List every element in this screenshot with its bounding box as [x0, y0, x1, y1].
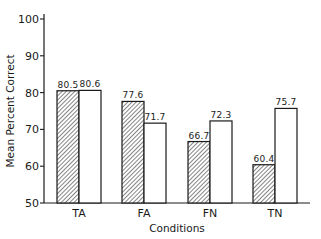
y-tick-label: 70 — [25, 123, 39, 136]
value-label: 80.5 — [57, 80, 78, 90]
y-axis-title: Mean Percent Correct — [4, 54, 16, 167]
value-label: 80.6 — [79, 79, 100, 89]
value-label: 77.6 — [122, 90, 143, 100]
category-label-tn: TN — [267, 207, 283, 220]
y-tick-label: 60 — [25, 160, 39, 173]
bar-ta-open — [79, 90, 101, 203]
y-axis: 5060708090100 — [18, 13, 44, 210]
value-label: 60.4 — [253, 154, 274, 164]
bar-fa-open — [144, 123, 166, 203]
y-tick-label: 100 — [18, 13, 39, 26]
y-tick-label: 90 — [25, 50, 39, 63]
value-label: 71.7 — [144, 112, 165, 122]
category-label-ta: TA — [71, 207, 86, 220]
value-label: 66.7 — [188, 131, 209, 141]
bar-fn-hatched — [188, 142, 210, 203]
category-label-fn: FN — [203, 207, 218, 220]
y-tick-label: 50 — [25, 197, 39, 210]
bar-chart: 5060708090100 80.580.6TA77.671.7FA66.772… — [0, 0, 321, 239]
bar-fa-hatched — [122, 101, 144, 203]
category-label-fa: FA — [138, 207, 151, 220]
y-tick-label: 80 — [25, 87, 39, 100]
bar-tn-open — [275, 108, 297, 203]
bar-ta-hatched — [57, 91, 79, 203]
bar-tn-hatched — [253, 165, 275, 203]
x-axis-title: Conditions — [149, 222, 205, 234]
bar-fn-open — [210, 121, 232, 203]
bars-group — [57, 90, 297, 203]
value-label: 75.7 — [275, 97, 296, 107]
value-label: 72.3 — [210, 110, 231, 120]
